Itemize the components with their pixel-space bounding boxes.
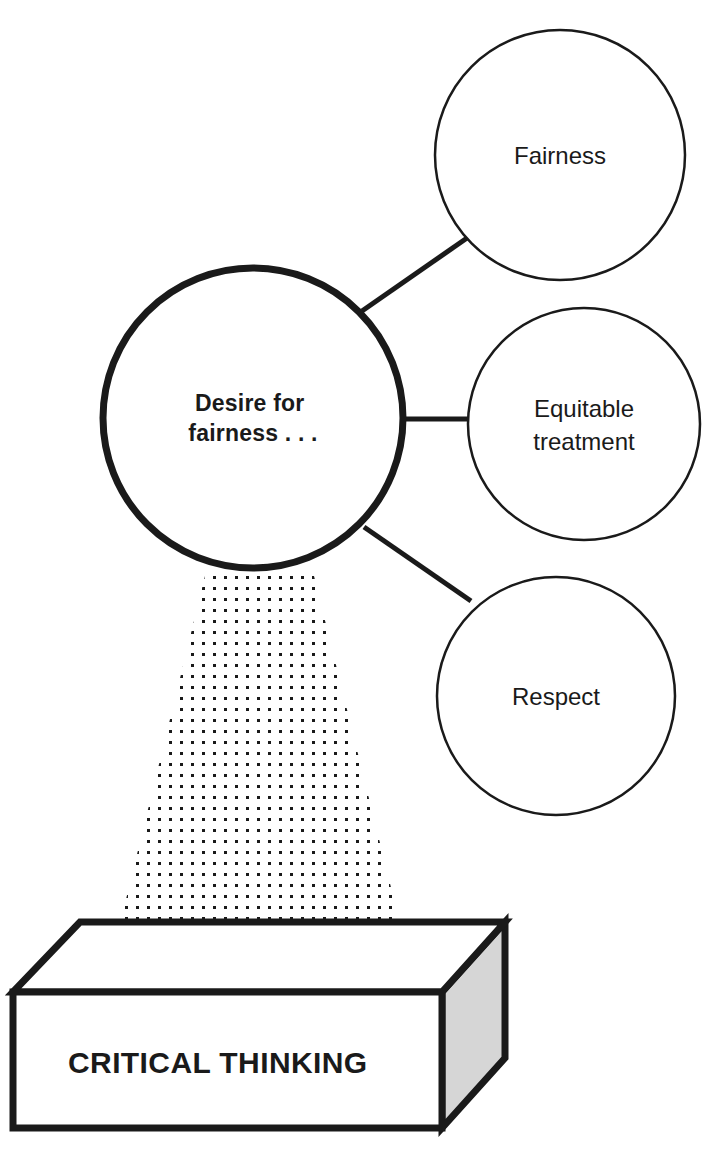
core-circle[interactable] [103,268,403,568]
diagram-canvas-root: Fairness Equitabletreatment Respect Desi… [0,0,708,1154]
branch-node-respect[interactable]: Respect [437,577,675,815]
core-label-line1: Desire for [195,390,304,416]
branch-circle-equitable-treatment[interactable] [468,308,700,540]
connector-core-to-respect [364,527,471,601]
connector-core-to-fairness [362,238,467,311]
platform-top-face [13,922,505,992]
branch-label-line: Respect [512,683,600,710]
branch-label-fairness: Fairness [514,142,606,169]
branch-label-respect: Respect [512,683,600,710]
branch-node-equitable-treatment[interactable]: Equitabletreatment [468,308,700,540]
core-label-line2: fairness . . . [188,420,317,446]
branch-node-fairness[interactable]: Fairness [435,30,685,280]
critical-thinking-diagram: Fairness Equitabletreatment Respect Desi… [0,0,708,1154]
branch-label-line: treatment [533,428,635,455]
critical-thinking-platform[interactable]: CRITICAL THINKING [13,922,505,1128]
platform-label: CRITICAL THINKING [68,1046,368,1079]
branch-label-line: Equitable [534,395,634,422]
branch-label-line: Fairness [514,142,606,169]
core-node-desire-for-fairness[interactable]: Desire for fairness . . . [103,268,403,568]
